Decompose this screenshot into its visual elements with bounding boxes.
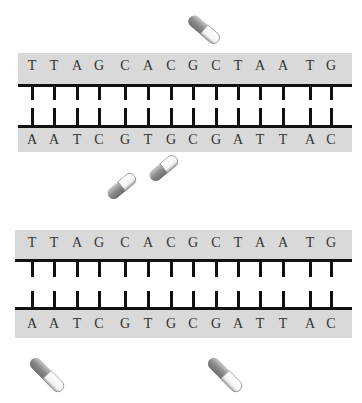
top-backbone xyxy=(18,84,352,87)
base-bond-top xyxy=(124,86,127,100)
base-bond-top xyxy=(53,261,56,277)
base-bond-bottom xyxy=(282,108,285,125)
bottom-base: G xyxy=(115,132,135,148)
top-base: G xyxy=(321,235,341,251)
base-bond-top xyxy=(147,86,150,100)
bottom-base: G xyxy=(206,316,226,332)
top-base: A xyxy=(273,58,293,74)
base-bond-top xyxy=(309,86,312,100)
base-bond-bottom xyxy=(53,291,56,307)
base-bond-top xyxy=(31,86,34,100)
base-bond-top xyxy=(98,261,101,277)
bottom-base: G xyxy=(161,316,181,332)
bottom-base: G xyxy=(161,132,181,148)
bottom-base: A xyxy=(44,316,64,332)
base-bond-bottom xyxy=(192,291,195,307)
base-bond-bottom xyxy=(170,291,173,307)
base-bond-top xyxy=(124,261,127,277)
top-base: C xyxy=(115,58,135,74)
bottom-base: T xyxy=(273,316,293,332)
top-base: T xyxy=(300,58,320,74)
base-bond-top xyxy=(53,86,56,100)
base-bond-top xyxy=(147,261,150,277)
bottom-base: A xyxy=(300,132,320,148)
top-base: A xyxy=(67,235,87,251)
top-base: A xyxy=(250,58,270,74)
bottom-base: C xyxy=(183,316,203,332)
bottom-base: T xyxy=(138,316,158,332)
top-base: T xyxy=(44,235,64,251)
bottom-base: C xyxy=(183,132,203,148)
pill-bottom-left-icon xyxy=(27,354,67,394)
bottom-base: C xyxy=(89,316,109,332)
top-base: G xyxy=(321,58,341,74)
pill-top-icon xyxy=(186,12,223,46)
top-base: T xyxy=(44,58,64,74)
base-bond-top xyxy=(170,86,173,100)
top-base: C xyxy=(115,235,135,251)
bottom-base: T xyxy=(67,132,87,148)
base-bond-bottom xyxy=(124,291,127,307)
bottom-base: T xyxy=(250,132,270,148)
base-bond-bottom xyxy=(76,291,79,307)
base-bond-top xyxy=(309,261,312,277)
base-bond-bottom xyxy=(192,108,195,125)
bottom-backbone xyxy=(18,125,352,128)
base-bond-bottom xyxy=(309,108,312,125)
base-bond-bottom xyxy=(330,291,333,307)
top-base: C xyxy=(206,58,226,74)
top-base: T xyxy=(22,58,42,74)
base-bond-top xyxy=(330,86,333,100)
bottom-base: A xyxy=(44,132,64,148)
base-bond-top xyxy=(282,86,285,100)
base-bond-bottom xyxy=(98,108,101,125)
base-bond-top xyxy=(282,261,285,277)
top-base: G xyxy=(183,58,203,74)
bottom-base: T xyxy=(138,132,158,148)
bottom-base: C xyxy=(321,132,341,148)
top-base: G xyxy=(183,235,203,251)
base-bond-top xyxy=(237,86,240,100)
top-base: C xyxy=(206,235,226,251)
base-bond-bottom xyxy=(215,108,218,125)
base-bond-bottom xyxy=(31,291,34,307)
bottom-base: G xyxy=(115,316,135,332)
base-bond-top xyxy=(259,86,262,100)
base-bond-top xyxy=(76,86,79,100)
top-base: A xyxy=(138,235,158,251)
base-bond-bottom xyxy=(215,291,218,307)
base-bond-bottom xyxy=(98,291,101,307)
bottom-base: G xyxy=(206,132,226,148)
top-base: T xyxy=(228,58,248,74)
base-bond-top xyxy=(170,261,173,277)
bottom-base: T xyxy=(273,132,293,148)
base-bond-top xyxy=(31,261,34,277)
base-bond-top xyxy=(192,86,195,100)
base-bond-bottom xyxy=(330,108,333,125)
base-bond-bottom xyxy=(259,291,262,307)
bottom-backbone xyxy=(15,307,352,310)
bottom-base: T xyxy=(250,316,270,332)
top-base: T xyxy=(22,235,42,251)
top-backbone xyxy=(15,259,352,262)
bottom-base: A xyxy=(228,132,248,148)
top-base: T xyxy=(300,235,320,251)
top-base: G xyxy=(89,58,109,74)
base-bond-bottom xyxy=(237,291,240,307)
bottom-base: A xyxy=(300,316,320,332)
bottom-base: C xyxy=(89,132,109,148)
base-bond-top xyxy=(192,261,195,277)
base-bond-top xyxy=(215,86,218,100)
base-bond-bottom xyxy=(309,291,312,307)
base-bond-bottom xyxy=(53,108,56,125)
top-base: A xyxy=(273,235,293,251)
base-bond-top xyxy=(98,86,101,100)
top-base: C xyxy=(161,58,181,74)
base-bond-bottom xyxy=(31,108,34,125)
bottom-base: C xyxy=(321,316,341,332)
bottom-base: A xyxy=(228,316,248,332)
base-bond-bottom xyxy=(170,108,173,125)
top-base: A xyxy=(250,235,270,251)
base-bond-bottom xyxy=(147,291,150,307)
pill-middle-right-icon xyxy=(146,152,180,184)
